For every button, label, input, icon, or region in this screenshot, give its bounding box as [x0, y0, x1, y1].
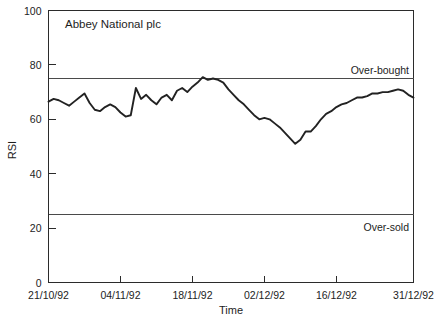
plot-frame: [49, 11, 414, 283]
over-sold-label: Over-sold: [363, 221, 409, 233]
plot-title: Abbey National plc: [65, 18, 161, 30]
y-tick-label: 60: [30, 113, 42, 125]
rsi-line: [49, 77, 414, 144]
x-tick-label: 02/12/92: [244, 289, 285, 301]
y-tick-label: 40: [30, 168, 42, 180]
x-axis-title: Time: [219, 304, 243, 316]
x-tick-label: 04/11/92: [100, 289, 140, 301]
x-tick-label: 31/12/92: [393, 289, 434, 301]
y-tick-label: 20: [30, 222, 42, 234]
x-tick-label: 21/10/92: [28, 289, 69, 301]
x-tick-label: 18/11/92: [172, 289, 212, 301]
rsi-chart: 020406080100 21/10/9204/11/9218/11/9202/…: [0, 0, 435, 323]
data-series-group: [49, 77, 414, 144]
chart-canvas: 020406080100 21/10/9204/11/9218/11/9202/…: [0, 0, 435, 323]
y-tick-label: 80: [30, 59, 42, 71]
y-tick-label: 100: [24, 5, 42, 17]
threshold-lines: [49, 79, 414, 215]
x-tick-label: 16/12/92: [316, 289, 357, 301]
over-bought-label: Over-bought: [351, 64, 409, 76]
y-tick-label: 0: [36, 277, 42, 289]
y-axis-title: RSI: [6, 141, 18, 159]
y-axis-ticks: 020406080100: [24, 5, 56, 289]
x-axis-ticks: 21/10/9204/11/9218/11/9202/12/9216/12/92…: [28, 276, 434, 301]
